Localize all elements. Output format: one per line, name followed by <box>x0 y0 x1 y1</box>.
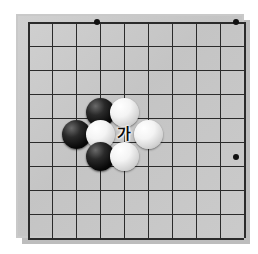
star-point <box>233 19 239 25</box>
grid-line-vertical <box>220 22 221 238</box>
grid-line-vertical <box>124 22 125 238</box>
grid-line-horizontal <box>28 22 244 24</box>
grid-line-vertical <box>244 22 246 238</box>
grid-line-vertical <box>172 22 173 238</box>
grid-line-horizontal <box>28 70 244 71</box>
grid-line-horizontal <box>28 94 244 95</box>
grid-line-horizontal <box>28 46 244 47</box>
grid-line-vertical <box>28 22 30 238</box>
grid-line-horizontal <box>28 190 244 191</box>
white-stone[interactable] <box>110 98 139 127</box>
board-grid <box>0 0 258 254</box>
white-stone[interactable] <box>134 120 163 149</box>
star-point <box>94 19 100 25</box>
grid-line-vertical <box>196 22 197 238</box>
grid-line-vertical <box>52 22 53 238</box>
white-stone[interactable] <box>110 142 139 171</box>
star-point <box>233 154 239 160</box>
go-board-figure: 가 <box>0 0 258 254</box>
grid-line-horizontal <box>28 166 244 167</box>
grid-line-horizontal <box>28 238 244 240</box>
grid-line-horizontal <box>28 214 244 215</box>
